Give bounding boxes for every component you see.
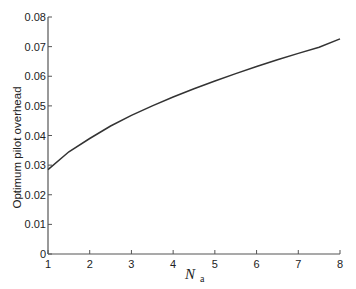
x-tick-label: 7 [295,258,301,270]
x-axis-label-subscript: a [200,273,205,284]
y-tick-label: 0.02 [25,189,46,201]
y-tick-label: 0.04 [25,130,46,142]
x-tick-label: 6 [254,258,260,270]
chart: 00.010.020.030.040.050.060.070.081234567… [0,0,356,289]
x-tick-label: 8 [337,258,343,270]
y-tick-label: 0.07 [25,41,46,53]
y-axis-label: Optimum pilot overhead [11,86,23,208]
y-tick-label: 0.06 [25,70,46,82]
y-tick-label: 0.01 [25,218,46,230]
x-tick-label: 5 [212,258,218,270]
x-tick-label: 2 [87,258,93,270]
line-chart: 00.010.020.030.040.050.060.070.081234567… [0,0,356,289]
x-tick-label: 3 [128,258,134,270]
y-tick-label: 0.05 [25,100,46,112]
data-line [48,39,340,170]
y-tick-label: 0.08 [25,11,46,23]
y-tick-label: 0.03 [25,159,46,171]
x-axis-label: N [184,266,196,282]
x-tick-label: 4 [170,258,176,270]
x-tick-label: 1 [45,258,51,270]
